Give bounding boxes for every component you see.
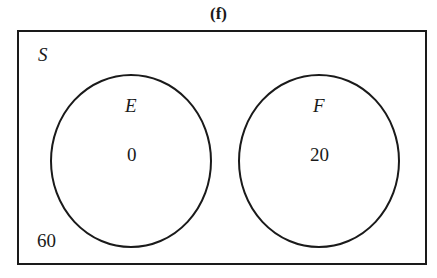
venn-diagram bbox=[0, 0, 437, 278]
universe-box bbox=[18, 31, 426, 264]
set-f-label: F bbox=[313, 95, 325, 117]
universe-label: S bbox=[38, 44, 48, 66]
outside-value: 60 bbox=[37, 230, 56, 252]
set-f-value: 20 bbox=[310, 144, 329, 166]
set-e-label: E bbox=[125, 95, 137, 117]
set-e-value: 0 bbox=[127, 144, 137, 166]
